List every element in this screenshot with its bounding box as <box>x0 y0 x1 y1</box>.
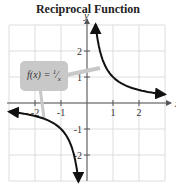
y-axis-label: y <box>83 9 89 21</box>
axes <box>7 19 171 181</box>
callout-pointer-2 <box>40 88 44 118</box>
x-axis-label: x <box>174 97 176 109</box>
curve-branch-negative <box>9 112 78 182</box>
curve-branch-positive <box>96 24 165 94</box>
y-tick-label: 2 <box>77 46 82 57</box>
curve-arrowhead <box>9 112 14 113</box>
y-tick-label: -1 <box>74 124 82 135</box>
curve-arrowhead <box>160 94 165 95</box>
x-tick-label: -1 <box>57 107 65 118</box>
x-tick-label: 2 <box>137 107 142 118</box>
x-tick-label: 1 <box>111 107 116 118</box>
function-label-callout: f(x) = 1⁄x <box>20 61 68 91</box>
plot-area: -2-11221-1-2 x y <box>0 0 176 191</box>
function-label: f(x) = 1⁄x <box>27 68 61 83</box>
